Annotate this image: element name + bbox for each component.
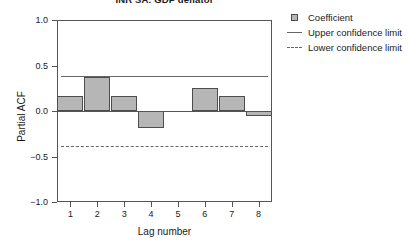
legend-item: Coefficient — [283, 10, 408, 24]
y-axis-tick-mark — [52, 202, 57, 203]
x-axis-tick-mark — [232, 202, 233, 207]
y-axis-tick-mark — [52, 20, 57, 21]
y-axis-tick-mark — [52, 66, 57, 67]
x-axis-tick-mark — [205, 202, 206, 207]
bar-lag-3 — [111, 96, 137, 111]
chart-title: INR SA: GDP deflator — [57, 0, 272, 5]
legend-item-label: Lower confidence limit — [305, 42, 402, 53]
x-axis-tick-label: 8 — [249, 209, 269, 219]
x-axis-tick-label: 3 — [114, 209, 134, 219]
x-axis-tick-mark — [151, 202, 152, 207]
chart-legend: CoefficientUpper confidence limitLower c… — [283, 10, 408, 55]
y-axis-tick-label: 0.0 — [35, 106, 48, 116]
legend-item: Upper confidence limit — [283, 25, 408, 39]
legend-swatch-icon — [291, 14, 298, 21]
x-axis-tick-label: 7 — [222, 209, 242, 219]
y-axis-title: Partial ACF — [16, 57, 27, 177]
x-axis-tick-mark — [178, 202, 179, 207]
x-axis-tick-label: 5 — [168, 209, 188, 219]
legend-item: Lower confidence limit — [283, 40, 408, 54]
legend-key-upper-limit — [283, 26, 305, 38]
bar-lag-7 — [219, 96, 245, 111]
x-axis-tick-label: 2 — [87, 209, 107, 219]
legend-item-label: Coefficient — [305, 12, 353, 23]
y-axis-tick-label: 0.5 — [35, 61, 48, 71]
y-axis-tick-mark — [52, 111, 57, 112]
pacf-chart: INR SA: GDP deflator 1.00.50.0−0.5−1.0 P… — [0, 0, 408, 249]
bar-lag-4 — [138, 111, 164, 128]
x-axis-tick-mark — [259, 202, 260, 207]
y-axis-tick-mark — [52, 157, 57, 158]
x-axis-title: Lag number — [57, 226, 272, 237]
zero-line — [57, 111, 272, 112]
x-axis-tick-label: 1 — [60, 209, 80, 219]
legend-solid-line-icon — [287, 32, 302, 33]
x-axis-tick-mark — [97, 202, 98, 207]
y-axis-tick-label: −0.5 — [30, 152, 48, 162]
legend-item-label: Upper confidence limit — [305, 27, 402, 38]
bar-lag-2 — [84, 77, 110, 111]
bar-lag-6 — [192, 88, 218, 111]
x-axis-tick-mark — [124, 202, 125, 207]
bar-lag-1 — [57, 96, 83, 111]
x-axis-tick-label: 4 — [141, 209, 161, 219]
y-axis-tick-label: −1.0 — [30, 197, 48, 207]
x-axis-tick-mark — [70, 202, 71, 207]
legend-dashed-line-icon — [287, 47, 302, 48]
legend-key-lower-limit — [283, 41, 305, 53]
lower-confidence-limit — [61, 146, 268, 147]
x-axis-tick-label: 6 — [195, 209, 215, 219]
plot-area — [57, 20, 272, 202]
y-axis-tick-label: 1.0 — [35, 15, 48, 25]
legend-key-coefficient — [283, 11, 305, 23]
